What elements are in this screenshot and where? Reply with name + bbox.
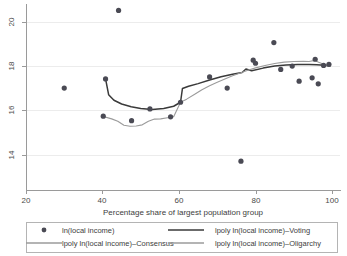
scatter-point: [168, 114, 173, 119]
legend-dot-icon: [42, 228, 47, 233]
series-line-lpoly-ln-local-income-consensus: [103, 102, 180, 126]
series-line-lpoly-ln-local-income-oligarchy: [181, 60, 331, 102]
x-tick-label-60: 60: [175, 196, 184, 205]
x-tick-label-80: 80: [252, 196, 261, 205]
legend-label: lpoly ln(local income)–Consensus: [62, 239, 174, 248]
scatter-point: [225, 85, 230, 90]
scatter-point: [253, 61, 258, 66]
y-tick-labels: 20 18 16 14: [7, 17, 16, 159]
scatter-point: [310, 75, 315, 80]
scatter-point: [316, 81, 321, 86]
scatter-point: [101, 114, 106, 119]
scatter-point: [178, 100, 183, 105]
x-axis-title: Percentage share of largest population g…: [103, 208, 264, 217]
scatter-plot-canvas: 20 18 16 14 20 40 60 80 100 Percentage s…: [0, 0, 347, 256]
scatter-point: [238, 159, 243, 164]
y-tick-label-18: 18: [7, 61, 16, 70]
scatter-point: [129, 118, 134, 123]
scatter-point: [207, 74, 212, 79]
series-lines-layer: [103, 60, 330, 126]
scatter-points-layer: [62, 8, 332, 164]
scatter-point: [313, 57, 318, 62]
legend-label: lpoly ln(local income)–Voting: [215, 226, 310, 235]
scatter-point: [62, 85, 67, 90]
scatter-point: [271, 40, 276, 45]
scatter-point: [116, 8, 121, 13]
x-tick-label-20: 20: [22, 196, 31, 205]
y-tick-label-14: 14: [7, 150, 16, 159]
x-tick-label-40: 40: [98, 196, 107, 205]
series-line-lpoly-ln-local-income-voting: [106, 65, 331, 110]
scatter-point: [290, 64, 295, 69]
x-tick-label-100: 100: [325, 196, 339, 205]
x-tick-labels: 20 40 60 80 100: [22, 196, 340, 205]
chart-figure: 20 18 16 14 20 40 60 80 100 Percentage s…: [0, 0, 347, 256]
scatter-point: [278, 67, 283, 72]
scatter-point: [147, 106, 152, 111]
y-tick-label-16: 16: [7, 105, 16, 114]
legend-label: ln(local income): [62, 226, 115, 235]
y-tick-label-20: 20: [7, 17, 16, 26]
scatter-point: [326, 62, 331, 67]
scatter-point: [321, 63, 326, 68]
scatter-point: [103, 76, 108, 81]
legend-label: lpoly ln(local income)–Oligarchy: [215, 239, 321, 248]
scatter-point: [297, 79, 302, 84]
